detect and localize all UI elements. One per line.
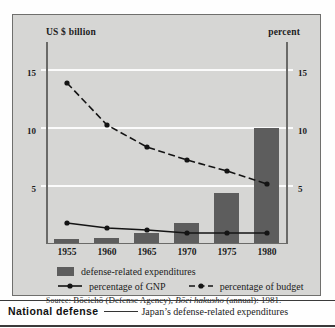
xlabel-1955: 1955	[47, 247, 87, 257]
bar-swatch-icon	[57, 267, 74, 276]
line-series-layer	[46, 42, 288, 244]
ytick-left-15: 15	[27, 69, 36, 78]
caption-headword: National defense	[8, 305, 98, 317]
legend-row-lines: percentage of GNP percentage of budget	[57, 279, 307, 293]
caption-rule-bottom	[0, 325, 335, 327]
xlabel-1980: 1980	[247, 247, 287, 257]
plot-area: 15 10 5 15 10 5	[46, 42, 288, 244]
ytick-right-5: 5	[298, 185, 303, 194]
left-axis-caption: US $ billion	[46, 27, 96, 37]
figure-root: US $ billion percent 15 10 5 15 10	[0, 0, 335, 328]
caption-rule-top	[0, 300, 335, 301]
caption-subtitle: Japan’s defense-related expenditures	[141, 306, 288, 317]
ytick-left-10: 10	[27, 127, 36, 136]
xlabel-1965: 1965	[127, 247, 167, 257]
x-axis-labels: 1955 1960 1965 1970 1975 1980	[46, 247, 288, 261]
budget-line	[67, 83, 267, 184]
legend-label-budget: percentage of budget	[220, 281, 304, 292]
ytick-right-10: 10	[298, 127, 307, 136]
gnp-line	[67, 223, 267, 233]
legend-label-gnp: percentage of GNP	[89, 281, 166, 292]
legend-label-expenditures: defense-related expenditures	[81, 266, 196, 277]
xlabel-1970: 1970	[167, 247, 207, 257]
xlabel-1975: 1975	[207, 247, 247, 257]
budget-markers	[64, 80, 269, 186]
chart-panel: US $ billion percent 15 10 5 15 10	[12, 14, 321, 296]
legend-row-expenditures: defense-related expenditures	[57, 264, 307, 278]
ytick-right-15: 15	[298, 69, 307, 78]
solid-line-key-icon	[57, 281, 83, 291]
figure-caption: National defense Japan’s defense-related…	[8, 305, 288, 317]
dashed-line-key-icon	[188, 281, 214, 291]
tick-right-10: 10	[288, 127, 293, 129]
tick-right-5: 5	[288, 185, 293, 187]
ytick-left-5: 5	[32, 185, 37, 194]
right-axis-caption: percent	[268, 27, 300, 37]
chart-legend: defense-related expenditures percentage …	[57, 264, 307, 293]
tick-right-15: 15	[288, 69, 293, 71]
xlabel-1960: 1960	[87, 247, 127, 257]
caption-dash	[104, 311, 138, 312]
